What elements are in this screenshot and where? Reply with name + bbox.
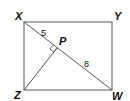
geometry-figure: X Y Z W P 5 8 (0, 0, 130, 101)
vertex-label-z: Z (13, 89, 22, 101)
segment-zp (24, 48, 57, 90)
length-xp: 5 (41, 28, 46, 38)
vertex-label-x: X (14, 10, 23, 22)
diagonal-xw (24, 22, 112, 90)
vertex-label-w: W (112, 90, 124, 101)
length-pw: 8 (84, 59, 89, 69)
vertex-label-y: Y (114, 10, 123, 22)
point-label-p: P (59, 35, 67, 47)
right-angle-mark (50, 45, 57, 52)
